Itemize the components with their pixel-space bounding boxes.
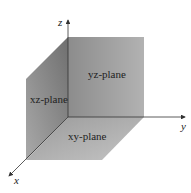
- x-axis-label: x: [13, 174, 19, 186]
- xz-plane-label: xz-plane: [30, 93, 68, 105]
- z-axis-label: z: [57, 16, 63, 28]
- diagram-canvas: z y x yz-plane xz-plane xy-plane: [0, 0, 191, 193]
- y-axis-label: y: [180, 120, 186, 132]
- yz-plane-label: yz-plane: [88, 68, 126, 80]
- xy-plane-label: xy-plane: [68, 130, 107, 142]
- coordinate-planes-diagram: z y x yz-plane xz-plane xy-plane: [0, 0, 191, 193]
